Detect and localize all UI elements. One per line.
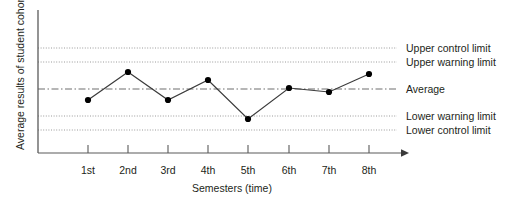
data-point-marker [326,89,332,95]
data-point-marker [165,97,171,103]
x-axis-arrow-icon [401,149,409,157]
data-series-line [88,72,369,119]
x-tick-label-2nd: 2nd [113,164,143,176]
x-tick-label-1st: 1st [73,164,103,176]
average-label: Average [406,84,445,95]
x-axis-ticks [88,145,369,153]
data-point-marker [286,85,292,91]
upper-warning-limit-label: Upper warning limit [406,57,496,68]
data-point-marker [125,69,131,75]
x-tick-label-4th: 4th [193,164,223,176]
x-tick-label-3rd: 3rd [153,164,183,176]
lower-warning-limit-label: Lower warning limit [406,111,496,122]
upper-control-limit-label: Upper control limit [406,43,491,54]
data-point-markers [85,69,372,122]
control-chart: Average results of student cohort Semest… [0,0,511,213]
data-point-marker [205,77,211,83]
x-axis-title: Semesters (time) [192,182,272,194]
data-point-marker [366,71,372,77]
x-tick-label-7th: 7th [314,164,344,176]
x-tick-label-8th: 8th [354,164,384,176]
lower-control-limit-label: Lower control limit [406,125,491,136]
x-tick-label-5th: 5th [233,164,263,176]
data-point-marker [245,116,251,122]
x-tick-label-6th: 6th [274,164,304,176]
y-axis-title: Average results of student cohort [14,0,26,150]
data-point-marker [85,97,91,103]
